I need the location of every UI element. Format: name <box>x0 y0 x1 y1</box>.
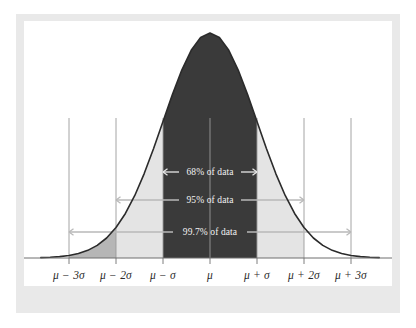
annotation-label-997-percent: 99.7% of data <box>183 227 237 237</box>
x-tick-label-mu: μ <box>207 269 213 281</box>
normal-distribution-chart <box>24 21 392 286</box>
plot-panel: 68% of data 95% of data 99.7% of data μ … <box>24 21 392 286</box>
annotation-label-68-percent: 68% of data <box>187 167 234 177</box>
annotation-label-95-percent: 95% of data <box>187 195 234 205</box>
x-tick-label-mu-plus-2sigma: μ + 2σ <box>288 269 320 281</box>
x-tick-label-mu-minus-sigma: μ − σ <box>150 269 176 281</box>
figure-root: 68% of data 95% of data 99.7% of data μ … <box>0 0 416 328</box>
region-three-sigma-left-tail <box>69 29 116 258</box>
shaded-regions <box>69 29 304 258</box>
x-tick-label-mu-plus-3sigma: μ + 3σ <box>335 269 367 281</box>
x-tick-label-mu-minus-3sigma: μ − 3σ <box>53 269 85 281</box>
x-axis-tick-marks <box>69 258 351 264</box>
x-tick-label-mu-minus-2sigma: μ − 2σ <box>100 269 132 281</box>
x-tick-label-mu-plus-sigma: μ + σ <box>244 269 270 281</box>
